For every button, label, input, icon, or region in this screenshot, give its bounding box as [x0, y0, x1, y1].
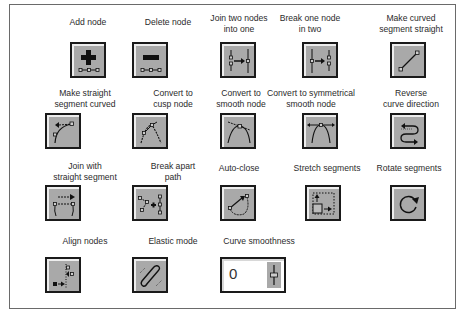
join-straight-button[interactable]: [45, 185, 81, 221]
curve-segment-icon: [49, 117, 79, 147]
curve-to-straight-label: Make curvedsegment straight: [366, 13, 456, 35]
line-icon: [394, 46, 424, 76]
break-node-icon: [306, 46, 336, 76]
slider-thumb-icon: [267, 262, 281, 288]
smooth-node-icon: [224, 117, 254, 147]
break-node-button[interactable]: [302, 42, 338, 78]
auto-close-button[interactable]: [220, 185, 256, 221]
cusp-node-button[interactable]: [132, 113, 168, 149]
add-node-icon: [74, 46, 104, 76]
align-nodes-icon: [49, 261, 79, 291]
align-nodes-button[interactable]: [45, 257, 81, 293]
join-straight-icon: [49, 189, 79, 219]
curve-smoothness-value[interactable]: 0: [229, 265, 237, 282]
elastic-mode-button[interactable]: [132, 257, 168, 293]
rotate-icon: [394, 189, 424, 219]
symmetrical-node-label: Convert to symmetricalsmooth node: [266, 88, 356, 110]
elastic-icon: [136, 261, 166, 291]
stretch-segments-label: Stretch segments: [282, 163, 372, 174]
curve-smoothness-control[interactable]: 0: [220, 257, 286, 293]
align-nodes-label: Align nodes: [40, 236, 130, 247]
auto-close-icon: [224, 189, 254, 219]
cusp-node-icon: [136, 117, 166, 147]
curve-smoothness-slider[interactable]: [267, 262, 281, 288]
straight-to-curve-button[interactable]: [45, 113, 81, 149]
stretch-icon: [309, 189, 339, 219]
stretch-segments-button[interactable]: [305, 185, 341, 221]
join-straight-label: Join withstraight segment: [40, 161, 130, 183]
join-nodes-button[interactable]: [220, 42, 256, 78]
auto-close-label: Auto-close: [194, 163, 284, 174]
break-apart-button[interactable]: [132, 185, 168, 221]
reverse-direction-button[interactable]: [390, 113, 426, 149]
break-apart-icon: [136, 189, 166, 219]
rotate-segments-label: Rotate segments: [364, 163, 454, 174]
curve-smoothness-label: Curve smoothness: [204, 236, 314, 247]
curve-to-straight-button[interactable]: [390, 42, 426, 78]
delete-node-button[interactable]: [132, 42, 168, 78]
straight-to-curve-label: Make straightsegment curved: [40, 88, 130, 110]
smooth-node-button[interactable]: [220, 113, 256, 149]
reverse-direction-label: Reversecurve direction: [366, 88, 456, 110]
symmetrical-node-button[interactable]: [302, 113, 338, 149]
delete-node-icon: [136, 46, 166, 76]
rotate-segments-button[interactable]: [390, 185, 426, 221]
symmetrical-node-icon: [306, 117, 336, 147]
join-nodes-icon: [224, 46, 254, 76]
add-node-label: Add node: [43, 17, 133, 28]
add-node-button[interactable]: [70, 42, 106, 78]
reverse-direction-icon: [394, 117, 424, 147]
break-node-label: Break one nodein two: [265, 13, 355, 35]
